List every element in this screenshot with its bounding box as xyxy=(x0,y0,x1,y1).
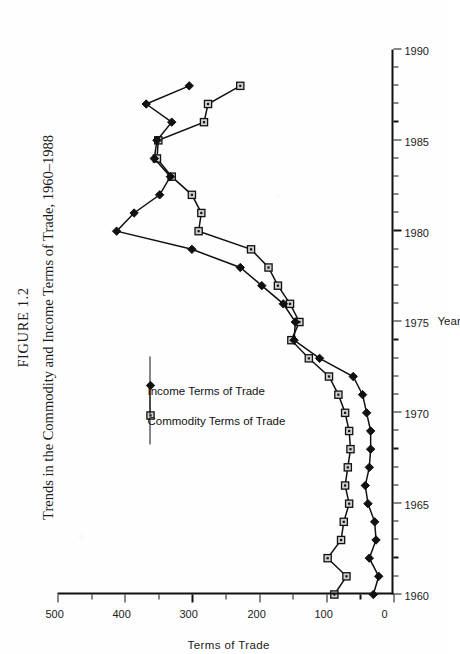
marker-open-square xyxy=(340,518,347,525)
year-tick xyxy=(393,466,398,467)
value-tick xyxy=(158,594,159,599)
year-tick-label: 1965 xyxy=(404,498,428,510)
marker-filled-diamond xyxy=(185,81,193,89)
marker-open-square xyxy=(274,282,281,289)
value-tick xyxy=(124,594,125,602)
marker-filled-diamond xyxy=(370,517,378,525)
year-tick xyxy=(393,248,398,249)
year-tick xyxy=(393,338,398,339)
marker-open-square xyxy=(345,500,352,507)
marker-filled-diamond xyxy=(363,499,371,507)
marker-open-square xyxy=(200,118,207,125)
legend-label: Commodity Terms of Trade xyxy=(147,414,285,426)
value-tick xyxy=(57,594,58,602)
marker-filled-diamond xyxy=(358,390,366,398)
marker-open-square xyxy=(334,391,341,398)
marker-open-square xyxy=(344,463,351,470)
marker-filled-diamond xyxy=(167,117,175,125)
marker-filled-diamond xyxy=(365,553,373,561)
year-tick xyxy=(393,139,401,140)
year-tick xyxy=(393,375,398,376)
marker-open-square xyxy=(341,481,348,488)
marker-filled-diamond xyxy=(374,572,382,580)
marker-filled-diamond xyxy=(315,354,323,362)
year-tick xyxy=(393,157,398,158)
marker-filled-diamond xyxy=(236,263,244,271)
marker-filled-diamond xyxy=(142,99,150,107)
x-axis-title: Year xyxy=(437,315,460,327)
value-tick-label: 300 xyxy=(179,607,197,619)
marker-open-square xyxy=(197,209,204,216)
value-tick xyxy=(191,594,192,602)
value-tick-label: 0 xyxy=(381,607,387,619)
marker-filled-diamond xyxy=(366,426,374,434)
y-axis-title: Terms of Trade xyxy=(187,638,269,650)
value-tick xyxy=(292,594,293,599)
year-tick xyxy=(393,266,398,267)
year-tick xyxy=(393,357,398,358)
year-tick xyxy=(393,393,398,394)
year-tick-label: 1960 xyxy=(404,589,428,601)
marker-open-square xyxy=(345,427,352,434)
year-tick xyxy=(393,320,401,321)
series-line-commodity-terms-of-trade xyxy=(156,85,350,594)
year-tick xyxy=(393,102,398,103)
value-tick-label: 100 xyxy=(314,607,332,619)
year-tick-label: 1975 xyxy=(404,317,428,329)
marker-filled-diamond xyxy=(365,463,373,471)
year-tick xyxy=(393,48,401,49)
year-tick xyxy=(393,538,398,539)
marker-open-square xyxy=(341,409,348,416)
value-tick-label: 200 xyxy=(247,607,265,619)
value-tick xyxy=(326,594,327,602)
marker-open-square xyxy=(324,554,331,561)
marker-filled-diamond xyxy=(129,208,137,216)
marker-open-square xyxy=(264,263,271,270)
marker-open-square xyxy=(342,572,349,579)
year-tick-label: 1990 xyxy=(404,44,428,56)
year-tick-label: 1985 xyxy=(404,135,428,147)
legend-label: Income Terms of Trade xyxy=(147,384,264,396)
value-tick xyxy=(393,594,394,602)
marker-open-square xyxy=(337,536,344,543)
year-tick xyxy=(393,120,398,121)
marker-open-square xyxy=(325,372,332,379)
value-tick xyxy=(91,594,92,599)
year-tick xyxy=(393,175,398,176)
marker-open-square xyxy=(236,82,243,89)
plot-area: 1960196519701975198019851990 01002003004… xyxy=(57,49,393,594)
series-plot xyxy=(57,49,393,594)
marker-filled-diamond xyxy=(361,481,369,489)
marker-open-square xyxy=(188,191,195,198)
year-tick xyxy=(393,302,398,303)
year-tick xyxy=(393,84,398,85)
figure-number: FIGURE 1.2 xyxy=(12,0,32,654)
year-tick xyxy=(393,193,398,194)
marker-filled-diamond xyxy=(362,408,370,416)
marker-filled-diamond xyxy=(348,372,356,380)
value-tick xyxy=(225,594,226,599)
value-tick xyxy=(259,594,260,602)
year-tick xyxy=(393,429,398,430)
year-tick xyxy=(393,556,398,557)
marker-filled-diamond xyxy=(366,444,374,452)
marker-filled-diamond xyxy=(371,535,379,543)
year-tick xyxy=(393,66,398,67)
year-tick-label: 1980 xyxy=(404,226,428,238)
year-tick xyxy=(393,502,401,503)
marker-open-square xyxy=(305,354,312,361)
marker-open-square xyxy=(204,100,211,107)
marker-open-square xyxy=(195,227,202,234)
year-tick xyxy=(393,484,398,485)
year-tick-label: 1970 xyxy=(404,407,428,419)
figure-title-block: FIGURE 1.2 Trends in the Commodity and I… xyxy=(12,0,58,654)
figure-caption: Trends in the Commodity and Income Terms… xyxy=(36,0,58,654)
marker-open-square xyxy=(346,445,353,452)
value-tick xyxy=(359,594,360,599)
year-tick xyxy=(393,284,398,285)
year-tick xyxy=(393,575,398,576)
marker-open-square xyxy=(247,245,254,252)
marker-filled-diamond xyxy=(187,245,195,253)
